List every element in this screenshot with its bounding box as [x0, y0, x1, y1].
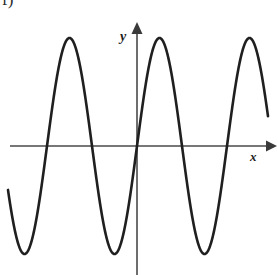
y-axis-label: y [120, 30, 126, 44]
x-axis-label: x [250, 150, 257, 163]
figure-container: f) y x [0, 0, 278, 275]
x-axis-arrowhead [266, 141, 277, 152]
sine-wave-plot [0, 0, 278, 275]
axes-group [10, 22, 277, 275]
y-axis-arrowhead [132, 22, 143, 34]
